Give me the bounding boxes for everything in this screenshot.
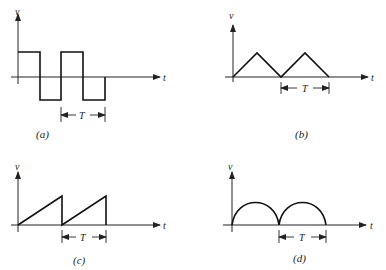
period-label: T (299, 232, 306, 243)
period-label: T (302, 83, 309, 94)
y-axis-label: v (15, 161, 20, 172)
caption-d: (d) (293, 252, 306, 265)
sawtooth-waveform (18, 196, 106, 225)
x-axis-label: t (371, 72, 374, 83)
panel-b: v t T (b) (225, 10, 374, 141)
square-waveform (18, 52, 105, 100)
period-marker: T (62, 230, 106, 243)
caption-a: (a) (36, 128, 49, 141)
waveform-figure: v t T (a) v t T (b) v t (0, 0, 386, 270)
panel-a: v t T (a) (11, 6, 166, 141)
triangle-waveform (233, 53, 329, 77)
caption-c: (c) (73, 254, 86, 267)
y-axis-label: v (229, 10, 234, 21)
period-label: T (79, 110, 86, 121)
period-marker: T (279, 230, 326, 243)
y-axis-label: v (228, 161, 233, 172)
x-axis-label: t (370, 220, 373, 231)
panel-d: v t T (d) (223, 161, 373, 265)
y-axis-label: v (15, 6, 20, 17)
period-marker: T (61, 107, 105, 122)
rectified-sine-waveform (232, 203, 326, 226)
x-axis-label: t (163, 220, 166, 231)
caption-b: (b) (295, 128, 308, 141)
panel-c: v t T (c) (11, 161, 166, 267)
period-marker: T (281, 82, 329, 94)
period-label: T (80, 232, 87, 243)
x-axis-label: t (163, 72, 166, 83)
